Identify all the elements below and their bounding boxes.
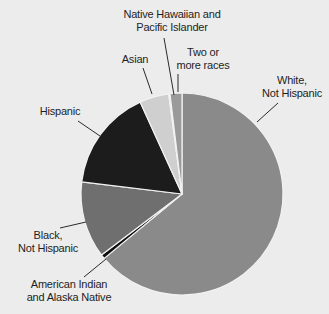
label-black: Black, Not Hispanic bbox=[10, 229, 86, 255]
label-white: White, Not Hispanic bbox=[255, 74, 329, 100]
leader-line-white bbox=[257, 103, 278, 122]
leader-line-aian bbox=[84, 259, 106, 277]
label-asian: Asian bbox=[112, 53, 158, 66]
leader-line-asian bbox=[143, 68, 152, 94]
pie-slices bbox=[81, 93, 283, 295]
pie-svg bbox=[0, 0, 329, 314]
leader-line-hispanic bbox=[78, 121, 100, 136]
label-nhpi: Native Hawaiian and Pacific Islander bbox=[112, 8, 232, 34]
label-two-races: Two or more races bbox=[168, 46, 238, 72]
label-aian: American Indian and Alaska Native bbox=[26, 278, 112, 304]
leader-line-black bbox=[60, 222, 86, 228]
pie-chart: Native Hawaiian and Pacific Islander Asi… bbox=[0, 0, 329, 314]
label-hispanic: Hispanic bbox=[38, 105, 82, 118]
